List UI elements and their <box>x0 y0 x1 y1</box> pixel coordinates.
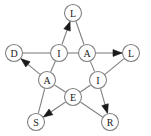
node-label: E <box>70 92 76 103</box>
graph-node-outer-top[interactable]: L <box>65 5 82 22</box>
graph-node-inner-right[interactable]: I <box>90 72 107 89</box>
edge-A-to-E <box>55 85 66 92</box>
edge-A-to-L-top <box>76 21 84 44</box>
edge-E-to-S <box>43 102 65 117</box>
node-label: L <box>128 48 134 59</box>
arrowhead-icon <box>64 21 70 31</box>
edge-A-to-S <box>38 89 44 114</box>
pentagram-graph-diagram: LDLSRIAAIE <box>0 0 151 136</box>
edge-I-to-L-top <box>62 21 70 44</box>
edge-A-to-I-right <box>90 61 94 71</box>
node-label: A <box>83 48 91 59</box>
node-label: L <box>70 8 76 19</box>
arrowhead-icon <box>113 50 122 57</box>
graph-node-inner-top-right[interactable]: A <box>79 45 96 62</box>
graph-canvas: LDLSRIAAIE <box>0 0 151 136</box>
graph-node-outer-bottom-left[interactable]: S <box>28 114 45 131</box>
graph-node-inner-top-left[interactable]: I <box>51 45 68 62</box>
edge-A-to-L-right <box>96 50 122 57</box>
graph-node-inner-bottom[interactable]: E <box>65 89 82 106</box>
edge-I-to-R <box>100 89 108 114</box>
arrowhead-icon <box>102 104 109 114</box>
graph-node-inner-left[interactable]: A <box>39 72 56 89</box>
edge-I-to-A-left <box>51 61 56 72</box>
edge-A-to-D <box>21 59 40 75</box>
arrowhead-icon <box>21 59 30 67</box>
node-label: A <box>43 75 51 86</box>
edge-I-to-L-right <box>105 59 124 75</box>
arrowhead-icon <box>43 109 52 117</box>
nodes-layer: LDLSRIAAIE <box>6 5 140 131</box>
edge-E-to-I <box>80 85 90 92</box>
edge-E-to-R <box>80 102 102 117</box>
graph-node-outer-left[interactable]: D <box>6 45 23 62</box>
node-label: I <box>57 48 60 59</box>
node-label: I <box>96 75 99 86</box>
node-label: D <box>10 48 17 59</box>
node-label: R <box>107 117 114 128</box>
node-label: S <box>33 117 39 128</box>
graph-node-outer-bottom-right[interactable]: R <box>102 114 119 131</box>
graph-node-outer-right[interactable]: L <box>123 45 140 62</box>
